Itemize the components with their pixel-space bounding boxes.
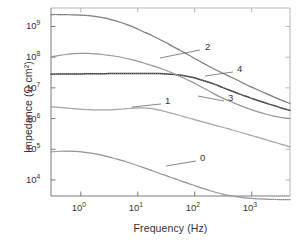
data-curves [51,15,290,200]
x-axis-title: Frequency (Hz) [51,222,290,234]
y-tick-label-9: 109 [26,19,40,31]
curve-label-2: 2 [205,41,210,52]
curve-3 [51,53,290,118]
x-tick-label-1: 101 [129,201,143,213]
plot-frame [51,8,290,196]
curve-label-1: 1 [165,95,170,106]
y-tick-label-4: 104 [26,173,40,185]
x-tick-label-0: 100 [72,201,86,213]
curve-4 [51,73,290,110]
y-tick-label-8: 108 [26,50,40,62]
x-tick-label-3: 103 [243,201,257,213]
x-tick-label-2: 102 [186,201,200,213]
curve-label-4: 4 [237,63,242,74]
y-tick-label-6: 106 [26,112,40,124]
axis-ticks [51,8,290,196]
y-tick-label-7: 107 [26,81,40,93]
chart-canvas [0,0,306,242]
y-tick-label-5: 105 [26,142,40,154]
curve-label-0: 0 [200,152,205,163]
curve-1 [51,107,290,147]
curve-2 [51,15,290,104]
curve-label-3: 3 [228,92,233,103]
impedance-bode-chart: Impedance (Ω cm²) Frequency (Hz) 1001011… [0,0,306,242]
curve-0 [51,151,290,200]
